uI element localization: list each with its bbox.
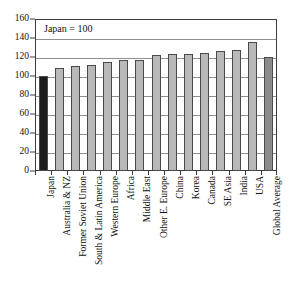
bar — [248, 42, 257, 171]
x-axis-label-text: Global Average — [273, 176, 283, 235]
x-axis-label-text: USA — [256, 176, 266, 195]
x-axis-label-text: Korea — [192, 176, 202, 199]
y-tick-label-20: 20 — [20, 147, 30, 157]
x-axis-label: Africa — [127, 152, 137, 176]
x-tick-mark — [35, 171, 36, 175]
bar — [232, 50, 241, 171]
x-axis-label: Global Average — [273, 117, 283, 176]
y-tick-label-80: 80 — [20, 90, 30, 100]
x-axis-label: South & Latin America — [95, 87, 105, 176]
y-tick-label-160: 160 — [15, 14, 29, 24]
chart-figure: 020406080100120140160 Japan = 100 JapanA… — [0, 0, 292, 297]
x-axis-label: USA — [256, 157, 266, 176]
y-tick-label-100: 100 — [15, 71, 29, 81]
x-axis-label-text: Australia & NZ — [63, 176, 73, 236]
y-tick-label-0: 0 — [24, 166, 29, 176]
x-axis-label: Japan — [47, 154, 57, 176]
y-axis: 020406080100120140160 — [0, 0, 35, 297]
x-axis-label-text: SE Asia — [224, 176, 234, 206]
x-axis-label-text: Canada — [208, 176, 218, 205]
x-axis-label: Other E. Europe — [160, 114, 170, 176]
x-axis-label-text: Japan — [47, 176, 57, 198]
x-axis-label: India — [240, 156, 250, 176]
x-axis-label-text: India — [240, 176, 250, 196]
x-axis-label-text: Other E. Europe — [160, 176, 170, 238]
x-axis-labels: JapanAustralia & NZFormer Soviet UnionSo… — [35, 176, 277, 296]
x-axis-label-text: China — [176, 176, 186, 199]
x-axis-label: Former Soviet Union — [79, 95, 89, 176]
x-axis-label: Australia & NZ — [63, 116, 73, 176]
x-axis-label: Middle East — [143, 130, 153, 176]
x-axis-label-text: Africa — [127, 176, 137, 200]
x-axis-label: Korea — [192, 153, 202, 176]
x-axis-label: Western Europe — [111, 115, 121, 176]
x-axis-label-text: Western Europe — [111, 176, 121, 237]
x-axis-label: SE Asia — [224, 146, 234, 176]
y-tick-label-60: 60 — [20, 109, 30, 119]
y-tick-label-120: 120 — [15, 52, 29, 62]
y-tick-label-40: 40 — [20, 128, 30, 138]
x-axis-label: Canada — [208, 148, 218, 177]
x-axis-label: China — [176, 153, 186, 176]
x-axis-label-text: South & Latin America — [95, 176, 105, 265]
x-axis-label-text: Former Soviet Union — [79, 176, 89, 257]
x-axis-label-text: Middle East — [143, 176, 153, 222]
y-tick-label-140: 140 — [15, 33, 29, 43]
